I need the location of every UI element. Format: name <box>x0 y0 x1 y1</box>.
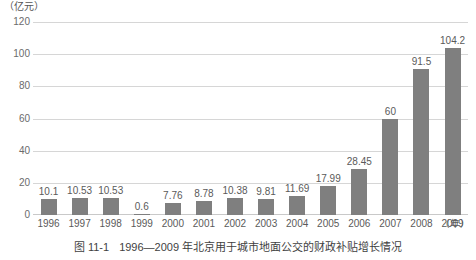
y-tick-120: 120 <box>2 17 30 27</box>
bar-value-label: 10.53 <box>67 185 92 196</box>
figure-caption-number: 图 11-1 <box>74 241 109 253</box>
bar <box>289 196 305 215</box>
x-axis-tick-labels: 1996199719981999200020012002200320042005… <box>33 217 468 231</box>
x-tick-1998: 1998 <box>95 217 126 231</box>
y-tick-40: 40 <box>2 146 30 156</box>
bar-slot: 0.6 <box>126 22 157 215</box>
bar-slot: 104.2 <box>437 22 468 215</box>
bar-slot: 91.5 <box>406 22 437 215</box>
bar <box>227 198 243 215</box>
bar-value-label: 91.5 <box>412 56 431 67</box>
bar <box>445 48 461 215</box>
bar-slot: 9.81 <box>251 22 282 215</box>
bar-slot: 10.1 <box>33 22 64 215</box>
bar-value-label: 28.45 <box>347 156 372 167</box>
y-tick-0: 0 <box>2 210 30 220</box>
y-axis-unit-label: （亿元） <box>4 1 44 13</box>
bar-slot: 10.53 <box>64 22 95 215</box>
y-tick-20: 20 <box>2 178 30 188</box>
bar <box>103 198 119 215</box>
x-tick-1996: 1996 <box>33 217 64 231</box>
bar <box>134 214 150 215</box>
bar-slot: 17.99 <box>313 22 344 215</box>
x-tick-2001: 2001 <box>188 217 219 231</box>
bar <box>382 119 398 215</box>
figure-caption-text: 1996—2009 年北京用于城市地面公交的财政补贴增长情况 <box>119 241 402 253</box>
bar-value-label: 11.69 <box>285 183 309 194</box>
y-tick-100: 100 <box>2 49 30 59</box>
bar <box>351 169 367 215</box>
bar-slot: 60 <box>375 22 406 215</box>
bar <box>258 199 274 215</box>
figure-bar-chart: （亿元） 120 100 80 60 40 20 0 10.110.5310.5… <box>0 0 476 260</box>
x-tick-2000: 2000 <box>157 217 188 231</box>
bar-slot: 10.53 <box>95 22 126 215</box>
x-axis-unit-label: （年） <box>440 217 470 231</box>
bar-value-label: 10.38 <box>222 185 247 196</box>
bar-value-label: 8.78 <box>194 188 213 199</box>
bar-slot: 8.78 <box>188 22 219 215</box>
bar-slot: 28.45 <box>344 22 375 215</box>
x-tick-2008: 2008 <box>406 217 437 231</box>
bar-slot: 10.38 <box>219 22 250 215</box>
bar-slot: 11.69 <box>282 22 313 215</box>
x-tick-2002: 2002 <box>219 217 250 231</box>
bar <box>196 201 212 215</box>
bar <box>320 186 336 215</box>
plot-area: 10.110.5310.530.67.768.7810.389.8111.691… <box>33 22 468 215</box>
y-tick-80: 80 <box>2 81 30 91</box>
figure-caption: 图 11-11996—2009 年北京用于城市地面公交的财政补贴增长情况 <box>0 240 476 255</box>
bar-value-label: 10.53 <box>98 185 123 196</box>
bar-value-label: 0.6 <box>135 201 149 212</box>
bar <box>72 198 88 215</box>
bar-value-label: 7.76 <box>163 190 182 201</box>
x-tick-2003: 2003 <box>251 217 282 231</box>
bar-value-label: 10.1 <box>39 186 58 197</box>
x-tick-2005: 2005 <box>313 217 344 231</box>
x-tick-1999: 1999 <box>126 217 157 231</box>
y-axis-tick-labels: 120 100 80 60 40 20 0 <box>0 22 30 215</box>
x-tick-2004: 2004 <box>282 217 313 231</box>
bar <box>165 203 181 215</box>
y-tick-60: 60 <box>2 114 30 124</box>
bar-series: 10.110.5310.530.67.768.7810.389.8111.691… <box>33 22 468 215</box>
bar-value-label: 17.99 <box>316 173 341 184</box>
x-tick-2006: 2006 <box>344 217 375 231</box>
x-tick-1997: 1997 <box>64 217 95 231</box>
bar-value-label: 60 <box>385 106 396 117</box>
bar-value-label: 9.81 <box>256 186 275 197</box>
bar-value-label: 104.2 <box>440 35 465 46</box>
bar <box>413 69 429 215</box>
x-tick-2007: 2007 <box>375 217 406 231</box>
bar-slot: 7.76 <box>157 22 188 215</box>
bar <box>41 199 57 215</box>
